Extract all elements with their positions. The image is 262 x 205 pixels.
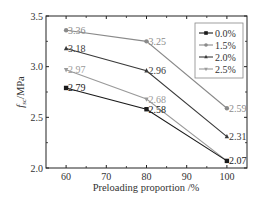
x-axis-label: Preloading proportion /% <box>93 182 200 193</box>
y-axis-label: fsc/MPa <box>15 76 28 108</box>
data-label: 2.07 <box>229 155 247 166</box>
circle-marker-icon <box>204 43 208 47</box>
data-label: 2.59 <box>229 103 247 114</box>
legend: 0.0%1.5%2.0%2.5% <box>195 23 243 78</box>
data-label: 3.18 <box>68 43 86 54</box>
data-label: 3.36 <box>68 25 86 36</box>
line-chart: 607080901002.02.53.03.5 2.972.682.792.58… <box>0 0 262 205</box>
square-marker-icon <box>204 31 208 35</box>
x-tick-label: 70 <box>101 171 111 182</box>
data-label: 2.97 <box>68 64 86 75</box>
y-axis-label-unit: /MPa <box>15 76 26 99</box>
data-label: 2.79 <box>68 82 86 93</box>
series-2.5%: 2.972.68 <box>64 64 229 163</box>
data-label: 2.31 <box>229 131 247 142</box>
data-label: 2.96 <box>149 65 167 76</box>
data-label: 2.58 <box>149 104 167 115</box>
data-label: 3.25 <box>149 36 167 47</box>
legend-label: 1.5% <box>215 40 236 51</box>
x-tick-label: 60 <box>61 171 71 182</box>
legend-label: 0.0% <box>215 28 236 39</box>
y-tick-label: 3.0 <box>31 61 44 72</box>
y-tick-label: 2.0 <box>31 163 44 174</box>
legend-label: 2.5% <box>215 64 236 75</box>
x-tick-label: 90 <box>182 171 192 182</box>
y-tick-label: 3.5 <box>31 11 44 22</box>
legend-label: 2.0% <box>215 52 236 63</box>
y-tick-label: 2.5 <box>31 112 44 123</box>
x-tick-label: 100 <box>219 171 234 182</box>
x-tick-label: 80 <box>142 171 152 182</box>
